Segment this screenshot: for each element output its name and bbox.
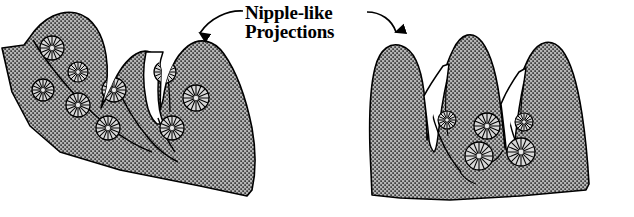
radial-cell [32, 79, 54, 101]
panel-left [2, 12, 255, 196]
radial-cell [68, 62, 88, 82]
radial-cell [66, 93, 90, 117]
annotation-line-1: Nipple-like [245, 2, 333, 23]
figure-canvas: Nipple-like Projections [0, 0, 634, 217]
nipple-like-projections-label: Nipple-like Projections [245, 2, 334, 42]
radial-cell [515, 113, 533, 131]
leader-arrow-right [367, 12, 396, 32]
radial-cell [96, 116, 120, 140]
radial-cell [160, 116, 184, 140]
radial-cell [438, 111, 456, 129]
leader-arrow-left [200, 11, 243, 33]
radial-cell [507, 138, 535, 166]
figure-root: Nipple-like Projections [0, 0, 634, 217]
radial-cell [40, 36, 64, 60]
radial-cell [465, 142, 493, 170]
panel-right [370, 35, 589, 200]
annotation-line-2: Projections [245, 21, 334, 42]
radial-cell [474, 113, 500, 139]
radial-cell [183, 85, 209, 111]
left-tissue-outline [2, 12, 255, 196]
